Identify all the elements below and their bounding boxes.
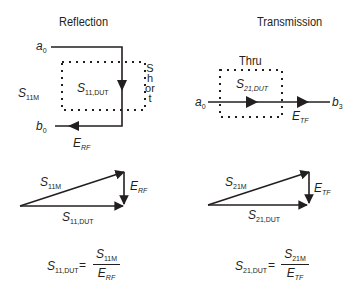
s11m-vector xyxy=(20,172,124,206)
vector-s21dut-label: S21,DUT xyxy=(248,209,280,223)
transmission-equation-lhs: S21,DUT xyxy=(235,260,267,274)
transmission-numerator: S21M xyxy=(284,248,306,262)
reflection-left-arrow-icon xyxy=(68,121,79,131)
short-standard-label: Short xyxy=(145,63,155,103)
reflection-reflected-label: b0 xyxy=(36,120,47,134)
thru-standard-label: Thru xyxy=(239,55,262,67)
fraction-bar xyxy=(93,264,120,265)
fraction-bar xyxy=(281,264,309,265)
transmission-incident-label: a0 xyxy=(195,96,206,110)
reflection-equals-sign: = xyxy=(79,259,86,271)
transmission-denominator: ETF xyxy=(287,267,304,281)
transmission-equals-sign: = xyxy=(268,259,275,271)
reflection-title: Reflection xyxy=(59,16,108,28)
reflection-error-label: ERF xyxy=(73,137,90,151)
transmission-equation-fraction: S21M ETF xyxy=(281,248,309,281)
vector-etf-label: ETF xyxy=(314,182,331,196)
vector-s11dut-label: S11,DUT xyxy=(62,211,94,225)
vector-s21m-label: S21M xyxy=(225,176,247,190)
reflection-incident-label: a0 xyxy=(36,40,47,54)
transmission-output-label: b3 xyxy=(332,96,343,110)
transmission-dut-label: S21,DUT xyxy=(236,78,268,92)
transmission-title: Transmission xyxy=(257,16,322,28)
reflection-dut-label: S11,DUT xyxy=(77,82,109,96)
vector-s11m-label: S11M xyxy=(40,176,61,190)
vector-erf-label: ERF xyxy=(130,180,147,194)
reflection-equation-lhs: S11,DUT xyxy=(47,260,79,274)
s21m-vector xyxy=(208,172,309,205)
transmission-arrow-1-icon xyxy=(246,96,258,108)
reflection-numerator: S11M xyxy=(96,248,117,262)
reflection-down-arrow-icon xyxy=(117,80,127,91)
reflection-measured-label: S11M xyxy=(18,87,39,101)
transmission-error-label: ETF xyxy=(292,110,309,124)
reflection-denominator: ERF xyxy=(98,267,115,281)
reflection-equation-fraction: S11M ERF xyxy=(93,248,120,281)
transmission-arrow-2-icon xyxy=(297,96,309,108)
